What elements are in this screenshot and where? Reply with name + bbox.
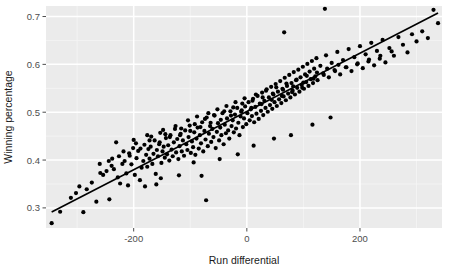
x-axis-title: Run differential <box>209 254 279 266</box>
y-axis-title: Winning percentage <box>2 70 14 164</box>
y-axis-ticks <box>43 17 47 208</box>
y-tick-label: 0.6 <box>27 59 40 70</box>
x-axis-tick-labels: -2000200 <box>124 233 368 244</box>
x-axis-ticks <box>134 228 360 232</box>
y-axis-tick-labels: 0.30.40.50.60.7 <box>27 11 40 213</box>
scatter-plot-figure: -2000200 0.30.40.50.60.7 Run differentia… <box>0 0 449 272</box>
chart-canvas: -2000200 0.30.40.50.60.7 Run differentia… <box>0 0 449 272</box>
y-tick-label: 0.7 <box>27 11 40 22</box>
y-tick-label: 0.4 <box>27 155 40 166</box>
x-tick-label: -200 <box>124 233 143 244</box>
y-tick-label: 0.3 <box>27 202 40 213</box>
y-tick-label: 0.5 <box>27 107 40 118</box>
x-tick-label: 200 <box>352 233 368 244</box>
x-tick-label: 0 <box>244 233 249 244</box>
